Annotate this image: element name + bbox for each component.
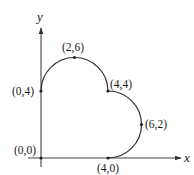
label-6-2: (6,2) (145, 118, 167, 131)
label-4-0: (4,0) (97, 162, 119, 175)
label-4-4: (4,4) (110, 78, 132, 91)
point-2-6 (73, 56, 76, 59)
point-4-0 (106, 156, 109, 159)
label-0-0: (0,0) (14, 144, 36, 157)
label-0-4: (0,4) (12, 85, 34, 98)
point-0-4 (39, 89, 42, 92)
x-axis-label: x (183, 150, 190, 165)
upper-semicircle-arc (41, 57, 108, 91)
point-origin (39, 156, 42, 159)
point-6-2 (140, 123, 143, 126)
right-semicircle-arc (108, 91, 142, 158)
y-axis-label: y (35, 9, 43, 24)
label-2-6: (2,6) (62, 41, 84, 54)
heart-curve-diagram: y x (0,0) (0,4) (2,6) (4,4) (6,2) (4,0) (0, 0, 194, 175)
